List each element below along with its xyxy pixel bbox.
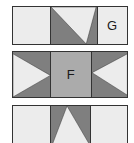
band-row-3 bbox=[12, 105, 128, 143]
cell-b1-left bbox=[13, 7, 50, 44]
triangle-pattern-figure: G F bbox=[0, 0, 134, 143]
triangle-left-icon bbox=[92, 52, 127, 97]
triangle-right-icon bbox=[13, 52, 50, 97]
cell-label-g: G bbox=[98, 7, 127, 44]
cell-b2-middle: F bbox=[50, 52, 90, 97]
cell-b3-right bbox=[90, 106, 127, 143]
triangle-down-icon bbox=[51, 7, 96, 44]
cell-b3-middle bbox=[50, 106, 89, 143]
cell-b1-right: G bbox=[97, 7, 127, 44]
cell-b2-left bbox=[13, 52, 50, 97]
cell-b1-middle bbox=[50, 7, 96, 44]
cell-b3-left bbox=[13, 106, 50, 143]
triangle-up-icon bbox=[51, 106, 89, 143]
band-row-1: G bbox=[12, 6, 128, 45]
cell-b2-right bbox=[91, 52, 127, 97]
band-row-2: F bbox=[12, 51, 128, 98]
cell-label-f: F bbox=[51, 52, 90, 97]
